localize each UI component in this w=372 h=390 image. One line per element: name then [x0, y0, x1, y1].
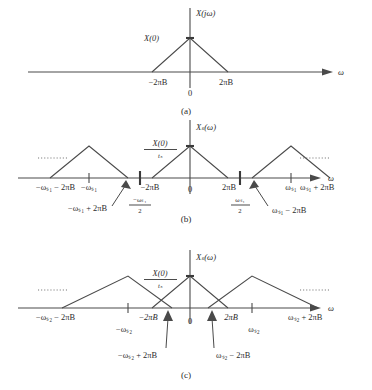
- panel-b-axis-arrowhead: [310, 175, 321, 182]
- panel-a-peak-label: X(0): [143, 34, 159, 43]
- panel-c-horizontal-axis-label: ω: [328, 304, 334, 313]
- panel-c-vertical-axis-label: Xₛ(ω): [195, 252, 216, 262]
- panel-a-caption: (a): [181, 106, 191, 116]
- panel-c-caption: (c): [181, 370, 191, 380]
- panel-b-tick-label-2piB: 2πB: [222, 183, 236, 192]
- panel-b-callout-arrow-left: [121, 180, 131, 189]
- panel-b-half-omega-right: ωₛ₁ 2: [231, 196, 250, 214]
- panel-b-callout-label-right: ωₛ₁ − 2πB: [272, 206, 307, 215]
- panel-a-vertical-axis-label: X(jω): [195, 8, 216, 18]
- panel-c-label-left-center: −ωₛ₂: [116, 325, 132, 334]
- panel-c-callout-line-left: [166, 318, 168, 348]
- panel-a-tick-label-left: −2πB: [149, 78, 168, 87]
- panel-b-callout-label-left: −ωₛ₁ + 2πB: [68, 204, 107, 213]
- panel-b-peak-numerator: X(0): [152, 139, 168, 148]
- panel-b-label-right-outer: ωₛ₁ + 2πB: [300, 183, 335, 192]
- panel-c-callout-label-left: −ωₛ₂ + 2πB: [118, 351, 157, 360]
- panel-c-label-left-outer: −ωₛ₂ − 2πB: [36, 313, 75, 322]
- panel-a-axis-arrowhead: [322, 69, 333, 76]
- panel-b-caption: (b): [181, 214, 192, 224]
- panel-c-label-right-center: ωₛ₂: [248, 325, 260, 334]
- panel-b: Xₛ(ω) ω X(0) tₛ −2πB 2πB 0 −ωₛ₁ − 2πB −ω…: [0, 118, 372, 250]
- panel-c-callout-line-right: [212, 318, 214, 348]
- panel-b-half-right-denominator: 2: [238, 207, 241, 214]
- panel-b-label-right-center: ωₛ₁: [285, 183, 297, 192]
- panel-c-label-right-outer: ωₛ₂ + 2πB: [288, 313, 323, 322]
- panel-c-callout-arrow-left: [163, 310, 173, 321]
- panel-a-horizontal-axis-label: ω: [338, 68, 344, 77]
- panel-c-callout-arrow-right: [207, 310, 217, 321]
- panel-b-label-left-outer: −ωₛ₁ − 2πB: [36, 183, 75, 192]
- panel-c-peak-numerator: X(0): [152, 269, 168, 278]
- panel-c-peak-denominator: tₛ: [158, 282, 163, 289]
- panel-b-vertical-axis-label: Xₛ(ω): [195, 122, 216, 132]
- panel-b-peak-denominator: tₛ: [158, 152, 163, 159]
- panel-c-callout-label-right: ωₛ₂ − 2πB: [216, 351, 251, 360]
- panel-c-origin-label: 0: [188, 317, 192, 326]
- panel-c-triangle-left: [62, 276, 172, 308]
- panel-b-half-omega-left: −ωₛ₁ 2: [129, 196, 151, 214]
- panel-b-half-left-denominator: 2: [138, 207, 141, 214]
- panel-b-horizontal-axis-label: ω: [328, 174, 334, 183]
- panel-a-origin-label: 0: [188, 89, 192, 98]
- panel-b-peak-fraction: X(0) tₛ: [144, 139, 177, 159]
- panel-a: X(jω) ω X(0) −2πB 2πB 0 (a): [0, 0, 372, 120]
- panel-c-axis-arrowhead: [310, 305, 321, 312]
- panel-c-tick-label-minus2piB: −2πB: [138, 313, 157, 322]
- figure-container: X(jω) ω X(0) −2πB 2πB 0 (a): [0, 0, 372, 390]
- panel-a-tick-label-right: 2πB: [219, 78, 233, 87]
- panel-b-half-right-numerator: ωₛ₁: [235, 196, 245, 203]
- panel-c-triangle-right: [208, 276, 318, 308]
- panel-b-origin-label: 0: [188, 185, 192, 194]
- panel-b-tick-label-minus2piB: −2πB: [141, 183, 160, 192]
- panel-c-tick-label-2piB: 2πB: [224, 313, 238, 322]
- panel-c: Xₛ(ω) ω X(0) tₛ −2πB 2πB 0 −ωₛ₂ − 2πB −ω…: [0, 248, 372, 390]
- panel-b-callout-arrow-right: [249, 180, 259, 189]
- panel-b-half-left-numerator: −ωₛ₁: [133, 196, 146, 203]
- panel-b-label-left-center: −ωₛ₁: [81, 183, 97, 192]
- panel-c-peak-fraction: X(0) tₛ: [144, 269, 177, 289]
